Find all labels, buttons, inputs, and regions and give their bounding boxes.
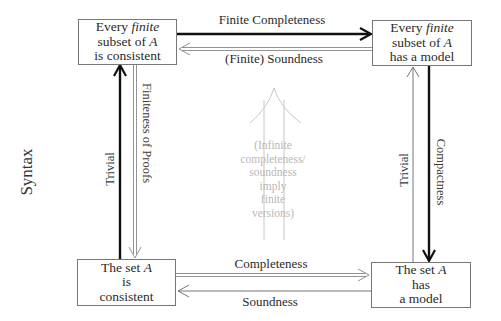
- syntax-label: Syntax: [17, 148, 37, 195]
- box-line: a model: [399, 292, 442, 307]
- box-line: subset of A: [392, 36, 452, 51]
- box-line: subset of A: [98, 35, 158, 50]
- box-text: The set: [101, 260, 144, 275]
- box-text: subset of: [392, 35, 444, 50]
- label-soundness: Soundness: [242, 294, 298, 310]
- box-text-italic: finite: [426, 20, 454, 35]
- box-line: is: [122, 275, 131, 290]
- center-note-line: finite: [240, 193, 305, 207]
- center-note: (Infinite completeness/ soundness imply …: [240, 139, 305, 220]
- label-completeness: Completeness: [235, 256, 308, 272]
- arrow-finite-completeness: [177, 28, 371, 40]
- label-compactness: Compactness: [433, 139, 448, 206]
- box-text: Every: [390, 20, 426, 35]
- box-set-consistent: The set A is consistent: [77, 259, 176, 306]
- center-note-line: versions): [240, 207, 305, 221]
- box-text: The set: [396, 262, 439, 277]
- label-finite-completeness: Finite Completeness: [219, 12, 326, 28]
- label-finiteness-of-proofs: Finiteness of Proofs: [139, 83, 154, 183]
- center-note-line: completeness/: [240, 153, 305, 167]
- box-line: The set A: [396, 263, 447, 278]
- box-line: has a model: [390, 50, 454, 65]
- box-finite-subset-has-model: Every finite subset of A has a model: [372, 20, 472, 66]
- box-text-italic: A: [144, 260, 152, 275]
- box-text-italic: A: [149, 34, 157, 49]
- box-finite-subset-consistent: Every finite subset of A is consistent: [78, 19, 177, 65]
- box-line: Every finite: [96, 20, 159, 35]
- box-line: has: [412, 278, 430, 293]
- box-text: subset of: [98, 34, 150, 49]
- box-line: consistent: [100, 290, 154, 305]
- box-text-italic: finite: [131, 19, 159, 34]
- center-note-line: soundness: [240, 166, 305, 180]
- center-note-line: (Infinite: [240, 139, 305, 153]
- box-set-has-model: The set A has a model: [371, 262, 471, 308]
- logic-diagram: Syntax Every finite subset of A is consi…: [0, 0, 501, 321]
- box-line: Every finite: [390, 21, 453, 36]
- label-right-trivial: Trivial: [397, 153, 412, 187]
- box-text-italic: A: [438, 262, 446, 277]
- label-finite-soundness: (Finite) Soundness: [225, 51, 323, 67]
- label-left-trivial: Trivial: [103, 152, 118, 186]
- box-line: The set A: [101, 261, 152, 276]
- center-note-line: imply: [240, 180, 305, 194]
- box-text-italic: A: [444, 35, 452, 50]
- box-line: is consistent: [94, 49, 160, 64]
- box-text: Every: [96, 19, 132, 34]
